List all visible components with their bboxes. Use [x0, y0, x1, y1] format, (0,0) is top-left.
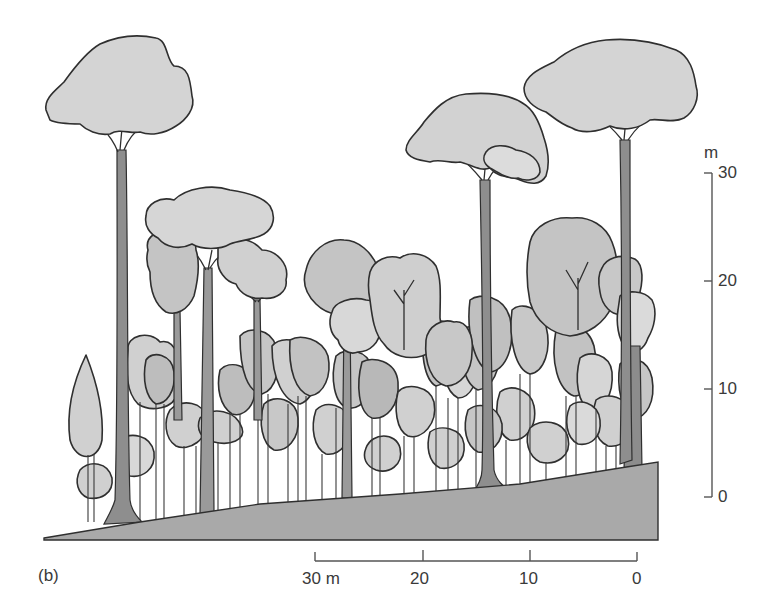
forest-profile-diagram [0, 0, 773, 614]
panel-label: (b) [38, 567, 59, 584]
horizontal-scale-tick-0: 0 [632, 570, 641, 587]
vertical-scale-tick-0: 0 [718, 488, 727, 505]
vertical-scale-bar [704, 173, 712, 497]
vertical-scale-tick-20: 20 [718, 272, 737, 289]
horizontal-scale-tick-10: 10 [519, 570, 538, 587]
vertical-scale-unit: m [704, 144, 718, 161]
horizontal-scale-bar [315, 550, 637, 561]
horizontal-scale-tick-30: 30 m [302, 570, 340, 587]
horizontal-scale-tick-20: 20 [410, 570, 429, 587]
vertical-scale-tick-10: 10 [718, 380, 737, 397]
vertical-scale-tick-30: 30 [718, 164, 737, 181]
